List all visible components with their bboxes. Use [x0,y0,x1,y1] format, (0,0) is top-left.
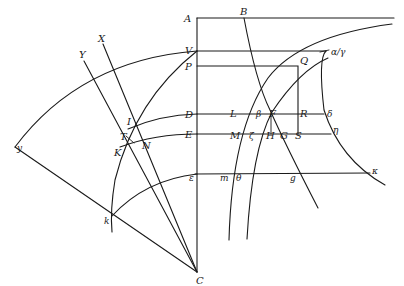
label-E: E [184,129,193,140]
rectangle-PQS [197,66,298,134]
label-eta: η [333,125,339,135]
label-y: y [16,143,23,153]
label-X: X [97,33,106,44]
label-L: L [229,108,237,119]
label-m: m [220,173,229,183]
line-y-C [15,147,197,272]
label-theta: θ [236,173,242,183]
label-delta: δ [327,109,332,119]
arc-k-epsilon [112,174,197,216]
label-D: D [184,109,193,120]
line-X-C [103,44,197,272]
label-H: H [265,130,275,141]
label-Y: Y [79,49,87,60]
label-R: R [299,108,308,119]
label-epsilon: ε [189,173,194,183]
label-P: P [184,61,192,72]
label-beta: β [255,109,261,119]
label-K: K [113,147,122,158]
line-Y-C [84,61,197,272]
label-A: A [183,13,191,24]
label-B: B [239,6,247,17]
label-zeta: ζ [249,131,255,141]
label-Q: Q [300,55,308,66]
label-M: M [229,130,241,141]
label-S: S [295,130,302,141]
label-kappa: κ [371,166,378,176]
label-k: k [104,216,109,226]
geometric-diagram: A B V P Q α/γ D L β F R δ E M ζ H G S η … [0,0,404,286]
arc-outer [15,51,197,147]
label-alpha-gamma: α/γ [331,47,346,57]
label-I: I [126,116,132,127]
label-g: g [290,173,296,183]
label-N: N [141,140,152,151]
label-C: C [196,275,204,286]
label-F: F [268,108,277,119]
label-G: G [280,130,288,141]
